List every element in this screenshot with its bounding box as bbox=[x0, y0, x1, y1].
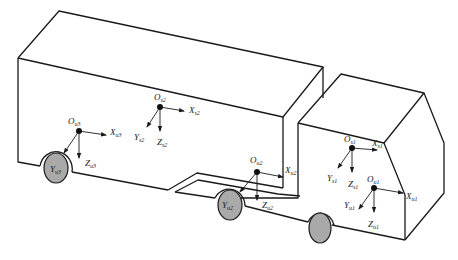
frame-u2: Ou2 Xu2 Zu2 bbox=[240, 155, 297, 211]
frame-u3: Ou3 Xu3 Zu3 bbox=[64, 116, 122, 169]
axis-y-s1-label: Ys1 bbox=[327, 173, 337, 184]
axis-x-u3-label: Xu3 bbox=[109, 127, 122, 138]
origin-s1-icon bbox=[349, 145, 355, 151]
cab-body bbox=[241, 74, 444, 240]
axis-z-u3-label: Zu3 bbox=[85, 158, 96, 169]
origin-u1-icon bbox=[371, 185, 377, 191]
axis-z-u1-label: Zu1 bbox=[368, 219, 379, 230]
origin-s2-icon bbox=[157, 104, 163, 110]
wheel-middle: Yu2 bbox=[215, 189, 245, 220]
origin-s2-label: Os2 bbox=[154, 92, 166, 103]
wheel-front bbox=[308, 213, 334, 243]
frame-u1: Ou1 Xu1 Yu1 Zu1 bbox=[344, 174, 418, 230]
axis-x-u2-label: Xu2 bbox=[284, 165, 297, 176]
axis-x-s1-label: Xs1 bbox=[371, 138, 383, 149]
origin-u2-label: Ou2 bbox=[250, 155, 263, 166]
axis-z-s1-label: Zs1 bbox=[348, 179, 358, 190]
axis-z-u2-label: Zu2 bbox=[262, 200, 273, 211]
origin-u1-label: Ou1 bbox=[367, 174, 380, 185]
axis-y-u1-label: Yu1 bbox=[344, 200, 355, 211]
truck-coordinate-diagram: Yu3 Yu2 Ou3 Xu3 Zu3 Os2 Xs2 Ys2 Zs2 Ou2 bbox=[0, 0, 458, 260]
wheel-rear: Yu3 bbox=[40, 152, 72, 183]
origin-u3-icon bbox=[76, 128, 82, 134]
axis-x-u1-label: Xu1 bbox=[405, 191, 418, 202]
axis-z-s2-label: Zs2 bbox=[157, 137, 167, 148]
origin-u2-icon bbox=[254, 169, 260, 175]
frame-s2: Os2 Xs2 Ys2 Zs2 bbox=[134, 92, 200, 148]
axis-x-s2-label: Xs2 bbox=[188, 105, 200, 116]
axis-y-s2-label: Ys2 bbox=[134, 132, 144, 143]
origin-u3-label: Ou3 bbox=[68, 116, 81, 127]
